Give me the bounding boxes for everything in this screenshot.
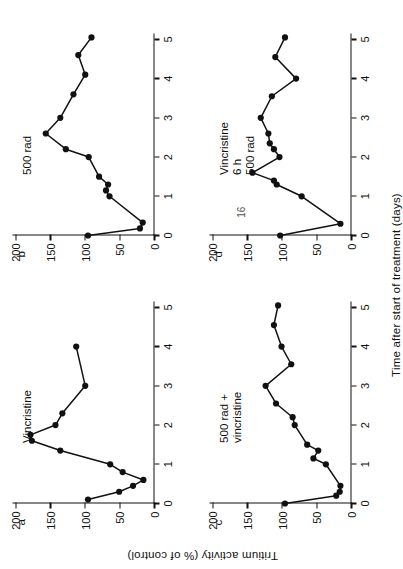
x-axis-tick-label: 1 bbox=[161, 193, 173, 199]
panel-letter-d: d bbox=[211, 251, 223, 257]
x-axis-tick-label: 3 bbox=[161, 382, 173, 388]
x-axis-tick-label: 0 bbox=[161, 232, 173, 238]
x-axis-tick-label: 0 bbox=[358, 500, 370, 506]
y-axis-tick-label: 100 bbox=[79, 243, 91, 261]
y-axis-tick-label: 0 bbox=[345, 511, 357, 517]
y-axis-tick-label: 150 bbox=[44, 243, 56, 261]
series-data-point bbox=[268, 93, 274, 99]
data-series bbox=[12, 33, 154, 235]
y-axis-tick-label: 150 bbox=[241, 511, 253, 529]
series-data-point bbox=[298, 193, 304, 199]
chart-panel-b: 050100150200012345b500 rad bbox=[8, 27, 184, 271]
multi-panel-figure: Tritium activity (% of control) Time aft… bbox=[0, 0, 403, 569]
x-axis-tick-label: 1 bbox=[358, 461, 370, 467]
x-axis-tick-label: 4 bbox=[161, 343, 173, 349]
x-axis-tick-label: 2 bbox=[161, 154, 173, 160]
stray-page-number: 16 bbox=[235, 206, 246, 217]
series-line bbox=[45, 37, 142, 235]
y-axis-tick-label: 50 bbox=[310, 243, 322, 255]
x-axis-tick-label: 5 bbox=[358, 36, 370, 42]
y-axis-tick-label: 50 bbox=[113, 243, 125, 255]
x-axis-tick-label: 5 bbox=[161, 36, 173, 42]
x-axis-tick-label: 2 bbox=[161, 422, 173, 428]
x-axis-title: Time after start of treatment (days) bbox=[389, 0, 401, 569]
series-data-point bbox=[322, 461, 328, 467]
y-axis-tick-label: 0 bbox=[148, 511, 160, 517]
series-data-point bbox=[270, 321, 276, 327]
y-axis-tick-label: 50 bbox=[113, 511, 125, 523]
x-axis-tick-label: 1 bbox=[161, 461, 173, 467]
x-axis-tick-label: 2 bbox=[358, 154, 370, 160]
panel-condition-label-b: 500 rad bbox=[20, 135, 33, 174]
panel-condition-label-d: Vincristine 6 h 500 rad bbox=[217, 122, 256, 175]
y-axis-tick-label: 150 bbox=[44, 511, 56, 529]
x-axis-tick-label: 4 bbox=[161, 75, 173, 81]
series-data-point bbox=[315, 447, 321, 453]
series-data-point bbox=[265, 130, 271, 136]
series-data-point bbox=[272, 400, 278, 406]
series-data-point bbox=[274, 302, 280, 308]
x-axis-tick-label: 5 bbox=[161, 304, 173, 310]
series-data-point bbox=[119, 469, 125, 475]
plot-area: 050100150200012345 bbox=[12, 33, 154, 235]
x-axis-tick-label: 3 bbox=[358, 382, 370, 388]
y-axis-tick-label: 0 bbox=[345, 243, 357, 249]
panel-condition-label-a: Vincristine bbox=[20, 390, 33, 443]
y-axis-tick-label: 100 bbox=[276, 511, 288, 529]
x-axis-tick-label: 4 bbox=[358, 343, 370, 349]
series-data-point bbox=[82, 71, 88, 77]
y-axis-tick-label: 100 bbox=[79, 511, 91, 529]
chart-panel-a: 050100150200012345aVincristine bbox=[8, 295, 184, 539]
figure-rotator: Tritium activity (% of control) Time aft… bbox=[0, 0, 403, 569]
x-axis-tick-label: 0 bbox=[161, 500, 173, 506]
chart-panel-d: 050100150200012345dVincristine 6 h 500 r… bbox=[205, 27, 381, 271]
x-axis-tick-label: 4 bbox=[358, 75, 370, 81]
series-data-point bbox=[106, 193, 112, 199]
series-data-point bbox=[270, 177, 276, 183]
panel-letter-c: c bbox=[211, 519, 223, 525]
panel-condition-label-c: 500 rad + vincristine bbox=[217, 391, 243, 442]
series-data-point bbox=[278, 343, 284, 349]
chart-panel-c: 050100150200012345c500 rad + vincristine bbox=[205, 295, 381, 539]
series-data-point bbox=[107, 461, 113, 467]
series-line bbox=[30, 346, 143, 499]
x-axis-tick-label: 3 bbox=[161, 114, 173, 120]
series-data-point bbox=[291, 421, 297, 427]
x-axis-tick-label: 3 bbox=[358, 114, 370, 120]
x-axis-tick-label: 2 bbox=[358, 422, 370, 428]
x-axis-tick-label: 0 bbox=[358, 232, 370, 238]
series-data-point bbox=[82, 382, 88, 388]
series-data-point bbox=[116, 488, 122, 494]
series-data-point bbox=[266, 140, 272, 146]
y-axis-title: Tritium activity (% of control) bbox=[87, 549, 317, 561]
series-data-point bbox=[281, 34, 287, 40]
series-data-point bbox=[304, 441, 310, 447]
y-axis-tick-label: 100 bbox=[276, 243, 288, 261]
series-data-point bbox=[262, 382, 268, 388]
x-axis-tick-label: 5 bbox=[358, 304, 370, 310]
series-data-point bbox=[95, 173, 101, 179]
series-data-point bbox=[73, 343, 79, 349]
series-data-point bbox=[85, 153, 91, 159]
series-data-point bbox=[277, 232, 283, 238]
x-axis-tick-label: 1 bbox=[358, 193, 370, 199]
series-line bbox=[252, 37, 340, 235]
panel-letter-a: a bbox=[14, 519, 26, 525]
panel-letter-b: b bbox=[14, 251, 26, 257]
y-axis-tick-label: 50 bbox=[310, 511, 322, 523]
y-axis-tick-label: 0 bbox=[148, 243, 160, 249]
series-data-point bbox=[84, 496, 90, 502]
series-data-point bbox=[88, 34, 94, 40]
series-data-point bbox=[57, 447, 63, 453]
y-axis-tick-label: 150 bbox=[241, 243, 253, 261]
